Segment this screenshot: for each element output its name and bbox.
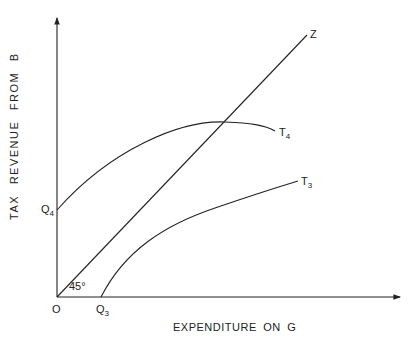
angle-label: 45° (69, 280, 86, 292)
x-axis-label: EXPENDITURE ON G (173, 321, 296, 333)
q4-label: Q4 (41, 203, 54, 215)
t3-curve (101, 181, 298, 297)
q3-label: Q3 (96, 303, 109, 315)
z-line (57, 35, 307, 297)
z-label: Z (310, 28, 317, 40)
t4-curve (57, 122, 275, 210)
origin-label: O (52, 303, 61, 315)
t3-label: T3 (301, 175, 312, 187)
y-axis-label: TAX REVENUE FROM B (8, 52, 20, 220)
diagram-canvas (0, 0, 412, 349)
t4-label: T4 (279, 126, 290, 138)
